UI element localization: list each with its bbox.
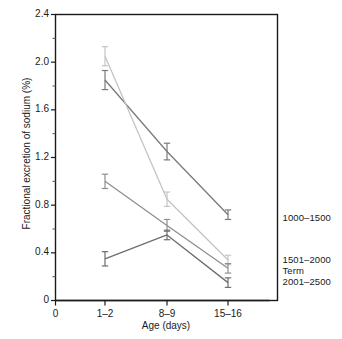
- series-label-3: 2001–2500: [283, 276, 331, 287]
- y-tick-label-6: 2.4: [15, 8, 49, 19]
- axis-ticks: [51, 15, 270, 306]
- data-series-group: [102, 47, 231, 288]
- series-2: [102, 174, 231, 273]
- y-tick-label-4: 1.6: [15, 103, 49, 114]
- series-label-0: 1000–1500: [283, 212, 331, 223]
- y-tick-label-2: 0.8: [15, 199, 49, 210]
- y-tick-label-0: 0: [15, 294, 49, 305]
- series-label-1: 1501–2000: [283, 254, 331, 265]
- series-label-2: Term: [283, 265, 305, 276]
- chart-figure: Fractional excretion of sodium (%) Age (…: [0, 0, 342, 339]
- y-tick-label-3: 1.2: [15, 151, 49, 162]
- y-tick-label-1: 0.4: [15, 246, 49, 257]
- x-tick-label-2: 8–9: [137, 308, 197, 319]
- x-axis-title: Age (days): [55, 320, 277, 331]
- chart-plot-area: [0, 0, 342, 339]
- series-3: [102, 230, 231, 287]
- x-tick-label-3: 15–16: [198, 308, 258, 319]
- y-tick-label-5: 2.0: [15, 56, 49, 67]
- x-tick-label-1: 1–2: [75, 308, 135, 319]
